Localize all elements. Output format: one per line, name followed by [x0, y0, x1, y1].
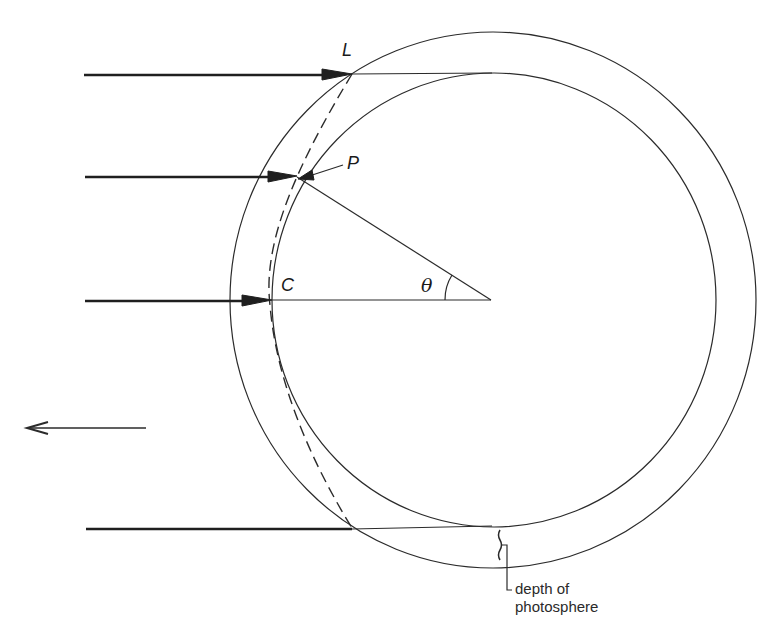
label-C: C	[281, 276, 294, 294]
caption-line-1: depth of	[515, 580, 598, 598]
radius-line-P	[297, 177, 491, 300]
theta-angle-arc	[445, 275, 452, 300]
tangent-line-bottom	[352, 526, 492, 529]
arrowhead-P-icon	[268, 171, 297, 182]
label-theta: θ	[421, 276, 432, 295]
arrowhead-C-icon	[242, 295, 272, 306]
depth-of-photosphere-caption: depth of photosphere	[515, 580, 598, 616]
arrowhead-L-icon	[322, 69, 352, 80]
caption-line-2: photosphere	[515, 598, 598, 616]
P-leader-arrowhead-icon	[298, 170, 314, 180]
label-L: L	[342, 41, 352, 59]
label-P: P	[347, 154, 359, 172]
sun-limb-darkening-diagram	[0, 0, 780, 631]
